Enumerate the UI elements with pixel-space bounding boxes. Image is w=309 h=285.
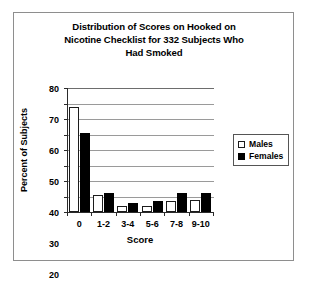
bar-males-1-2 [93,195,103,212]
y-axis-tick-label: 20 [49,270,59,280]
y-axis-tick-label: 30 [49,239,59,249]
bar-group [117,88,138,212]
y-axis-title: Percent of Subjects [18,88,30,212]
x-axis-tick [91,212,92,216]
x-axis-title: Score [67,234,213,245]
x-axis-tick-label: 0 [77,219,82,229]
bar-females-9-10 [201,193,211,212]
legend-swatch-icon [238,141,245,148]
bar-males-0 [69,107,79,212]
bar-females-1-2 [104,193,114,212]
chart-title-line-3: Had Smoked [22,46,286,59]
bar-males-3-4 [117,206,127,212]
x-axis-tick [67,212,68,216]
x-axis-tick [164,212,165,216]
x-axis-tick-label: 9-10 [192,219,210,229]
bar-females-5-6 [153,201,163,212]
chart-title-line-1: Distribution of Scores on Hooked on [22,20,286,33]
bars-layer [67,88,213,212]
bar-males-5-6 [142,206,152,212]
bar-females-3-4 [128,203,138,212]
y-axis-tick-label: 80 [49,84,59,94]
y-axis-tick-label: 50 [49,177,59,187]
x-axis-tick [116,212,117,216]
chart-title-line-2: Nicotine Checklist for 332 Subjects Who [22,33,286,46]
bar-females-7-8 [177,193,187,212]
y-axis-tick-label: 70 [49,115,59,125]
y-axis-tick-label: 60 [49,146,59,156]
x-axis-tick-label: 7-8 [170,219,183,229]
x-axis-tick [189,212,190,216]
legend-swatch-icon [238,153,245,160]
bar-group [190,88,211,212]
legend-label: Females [249,151,283,161]
y-axis-tick-label: 40 [49,208,59,218]
chart-legend: MalesFemales [233,134,289,166]
bar-group [69,88,90,212]
bar-males-9-10 [190,200,200,212]
x-axis-tick [213,212,214,216]
bar-group [166,88,187,212]
bar-males-7-8 [166,201,176,212]
legend-label: Males [249,139,273,149]
x-axis-tick-label: 3-4 [121,219,134,229]
x-axis-tick [140,212,141,216]
chart-title: Distribution of Scores on Hooked on Nico… [22,20,286,60]
bar-group [142,88,163,212]
x-axis-tick-label: 1-2 [97,219,110,229]
x-axis-tick-label: 5-6 [146,219,159,229]
bar-females-0 [80,133,90,212]
legend-item-females: Females [238,150,283,162]
legend-item-males: Males [238,138,283,150]
bar-group [93,88,114,212]
chart-figure: Distribution of Scores on Hooked on Nico… [0,0,309,285]
